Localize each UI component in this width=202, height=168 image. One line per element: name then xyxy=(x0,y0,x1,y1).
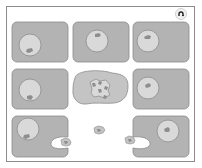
healthy-cell xyxy=(133,69,189,109)
fragmented-nucleus xyxy=(90,79,110,99)
replay-icon xyxy=(177,10,185,18)
replay-button[interactable] xyxy=(175,8,187,20)
healthy-cell xyxy=(12,69,68,109)
healthy-cell xyxy=(12,22,68,62)
healthy-cell xyxy=(133,22,189,62)
engulfed-apoptotic-body xyxy=(61,138,71,146)
apoptotic-cell xyxy=(73,71,128,104)
cell-diagram xyxy=(0,0,202,168)
healthy-cell xyxy=(73,22,129,62)
apoptotic-body xyxy=(94,126,105,134)
phagocytosing-cell xyxy=(12,116,68,157)
phagocytosing-cell xyxy=(133,116,189,157)
